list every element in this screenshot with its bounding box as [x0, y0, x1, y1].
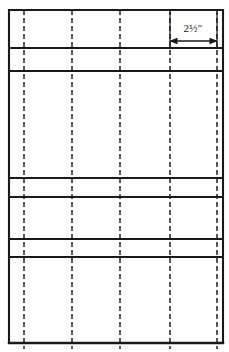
dimension-label: 2½″ — [184, 22, 203, 34]
diagram-background — [0, 0, 229, 352]
framing-panel-diagram: 2½″ — [0, 0, 229, 352]
diagram-canvas: 2½″ — [0, 0, 229, 352]
